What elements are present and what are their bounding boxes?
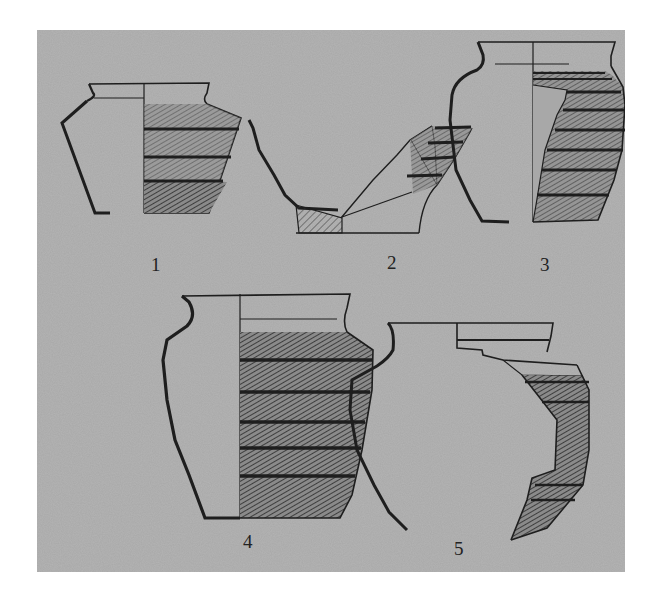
pottery-drawings <box>37 30 625 572</box>
pottery-figure-panel: 1 2 3 4 5 <box>37 30 625 572</box>
vessel-2-label: 2 <box>387 253 397 272</box>
vessel-3-label: 3 <box>540 255 550 274</box>
vessel-4-label: 4 <box>243 532 253 551</box>
vessel-1-label: 1 <box>151 255 161 274</box>
vessel-5-label: 5 <box>454 539 464 558</box>
